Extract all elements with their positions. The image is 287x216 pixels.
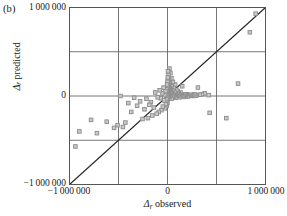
data-point bbox=[132, 96, 136, 100]
data-point bbox=[180, 84, 184, 88]
data-point bbox=[162, 86, 166, 90]
data-point bbox=[95, 131, 99, 135]
data-points-layer bbox=[74, 12, 258, 148]
data-point bbox=[145, 97, 149, 101]
data-point bbox=[236, 82, 240, 86]
figure-panel-b: (b) Δr predicted Δr observed 1 000 000 0… bbox=[0, 0, 287, 216]
data-point bbox=[207, 93, 211, 97]
data-point bbox=[156, 96, 160, 100]
data-point bbox=[248, 30, 252, 34]
data-point bbox=[208, 111, 212, 115]
data-point bbox=[121, 125, 125, 129]
data-point bbox=[146, 116, 150, 120]
data-point bbox=[148, 103, 152, 107]
data-point bbox=[138, 100, 142, 104]
scatter-plot-canvas bbox=[0, 0, 287, 216]
data-point bbox=[141, 117, 145, 121]
data-point bbox=[196, 86, 200, 90]
data-point bbox=[158, 88, 162, 92]
data-point bbox=[166, 69, 170, 73]
data-point bbox=[112, 126, 116, 130]
data-point bbox=[152, 106, 156, 110]
data-point bbox=[225, 116, 229, 120]
data-point bbox=[166, 76, 170, 80]
data-point bbox=[74, 145, 78, 149]
data-point bbox=[155, 112, 159, 116]
data-point bbox=[135, 104, 139, 108]
data-point bbox=[161, 105, 165, 109]
data-point bbox=[129, 110, 133, 114]
data-point bbox=[105, 120, 109, 124]
data-point bbox=[124, 121, 128, 125]
data-point bbox=[143, 107, 147, 111]
data-point bbox=[127, 101, 131, 105]
data-point bbox=[151, 114, 155, 118]
data-point bbox=[89, 118, 93, 122]
data-point bbox=[153, 91, 157, 95]
data-point bbox=[119, 94, 123, 98]
data-point bbox=[165, 83, 169, 87]
data-point bbox=[254, 12, 258, 16]
data-point bbox=[78, 130, 82, 134]
